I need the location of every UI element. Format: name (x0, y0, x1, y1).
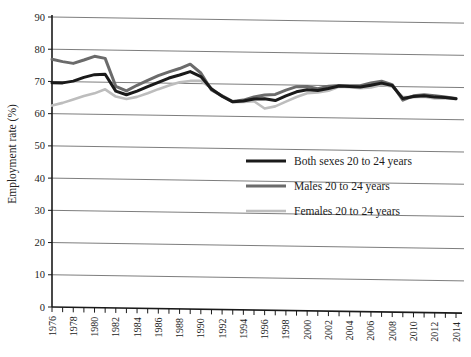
gridline (52, 178, 464, 184)
x-tick-label: 2014 (451, 322, 462, 342)
x-tick-label: 1990 (195, 318, 206, 338)
x-tick-label: 1996 (259, 319, 270, 339)
x-tick-label: 2008 (387, 321, 398, 341)
y-tick-label: 20 (35, 237, 46, 248)
legend-label-1: Males 20 to 24 years (294, 180, 390, 193)
y-tick-label: 40 (35, 173, 46, 184)
legend: Both sexes 20 to 24 yearsMales 20 to 24 … (246, 155, 412, 218)
y-tick-label: 60 (35, 108, 46, 119)
x-tick-label: 2002 (323, 320, 334, 340)
gridline (52, 49, 464, 55)
y-tick-label: 0 (40, 302, 45, 313)
x-tick-label: 1978 (68, 316, 79, 336)
y-tick-label: 80 (35, 44, 46, 55)
gridlines (52, 17, 464, 281)
x-tick-label: 2006 (365, 321, 376, 341)
x-tick-label: 2012 (429, 322, 440, 342)
y-axis-title: Employment rate (%) (6, 104, 19, 204)
gridline (52, 114, 464, 120)
chart-canvas: 0102030405060708090197619781980198219841… (0, 0, 471, 357)
gridline (52, 146, 464, 152)
x-tick-label: 1980 (89, 317, 100, 337)
y-axis-ticks: 0102030405060708090 (35, 12, 53, 313)
y-tick-label: 50 (35, 140, 46, 151)
y-tick-label: 10 (35, 269, 46, 280)
gridline (52, 243, 464, 249)
x-axis-line (52, 307, 462, 313)
x-tick-label: 1998 (280, 319, 291, 339)
y-tick-label: 90 (35, 12, 46, 23)
x-tick-label: 1976 (47, 316, 58, 336)
x-tick-label: 1992 (217, 319, 228, 339)
x-tick-label: 2000 (302, 320, 313, 340)
x-tick-label: 1994 (238, 319, 249, 339)
y-tick-label: 70 (35, 76, 46, 87)
x-axis-tick-labels: 1976197819801982198419861988199019921994… (47, 316, 462, 342)
gridline (52, 275, 464, 281)
x-tick-label: 1988 (174, 318, 185, 338)
legend-label-0: Both sexes 20 to 24 years (294, 155, 412, 168)
employment-rate-line-chart: 0102030405060708090197619781980198219841… (0, 0, 471, 357)
gridline (52, 17, 464, 23)
y-tick-label: 30 (35, 205, 46, 216)
x-tick-label: 2004 (344, 320, 355, 340)
x-tick-label: 1982 (110, 317, 121, 337)
x-tick-label: 1986 (153, 318, 164, 338)
x-tick-label: 2010 (408, 321, 419, 341)
legend-label-2: Females 20 to 24 years (294, 205, 401, 218)
x-tick-label: 1984 (132, 317, 143, 337)
